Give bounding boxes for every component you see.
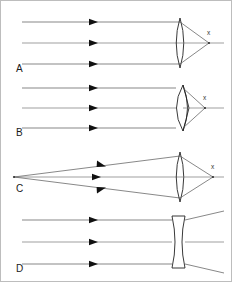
panel-a: x A bbox=[16, 18, 224, 74]
panel-a-focal-point bbox=[208, 42, 210, 44]
panel-a-incoming-rays bbox=[22, 22, 180, 64]
panel-a-outgoing-rays bbox=[180, 22, 224, 64]
panel-d-lens bbox=[172, 216, 185, 268]
panel-c-focal-point bbox=[212, 176, 214, 178]
panel-c-outgoing-rays bbox=[180, 156, 224, 198]
panel-d-outgoing-rays bbox=[185, 211, 224, 273]
optics-ray-diagram-figure: x A x B bbox=[0, 0, 232, 282]
panel-c-focus-label: x bbox=[211, 163, 215, 170]
panel-a-focus-label: x bbox=[207, 29, 211, 36]
panel-c: x C bbox=[13, 152, 224, 202]
panel-c-source-point bbox=[13, 176, 15, 178]
panel-label-d: D bbox=[16, 263, 23, 274]
panel-label-a: A bbox=[16, 63, 23, 74]
panel-d: D bbox=[16, 211, 224, 274]
panel-b-focal-point bbox=[204, 107, 206, 109]
panel-a-ray-arrowheads bbox=[89, 19, 98, 67]
panel-d-ray-arrowheads bbox=[89, 217, 98, 267]
panel-label-b: B bbox=[16, 127, 23, 138]
panel-b-incoming-rays bbox=[22, 88, 176, 128]
panel-label-c: C bbox=[16, 183, 23, 194]
panel-b-ray-arrowheads bbox=[89, 85, 98, 131]
panel-b-focus-label: x bbox=[203, 94, 207, 101]
panel-b: x B bbox=[16, 85, 224, 138]
